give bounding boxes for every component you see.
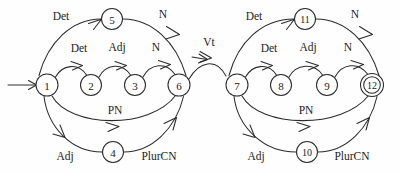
edge-label-det-1-2: Det	[71, 42, 88, 54]
node-7-label: 7	[234, 80, 240, 92]
edge-label-n-3-6: N	[152, 41, 161, 53]
edge-label-det-7-8: Det	[261, 42, 278, 54]
edge-7-to-8	[246, 62, 277, 78]
edge-label-pn-1-6: PN	[108, 104, 123, 116]
node-5-label: 5	[109, 14, 115, 26]
node-4[interactable]: 4	[103, 142, 124, 163]
node-11[interactable]: 11	[295, 9, 316, 30]
node-5[interactable]: 5	[102, 9, 123, 30]
node-1[interactable]: 1	[36, 74, 58, 96]
edge-label-n-9-12: N	[344, 41, 353, 53]
node-2[interactable]: 2	[81, 75, 102, 96]
node-6[interactable]: 6	[168, 74, 190, 96]
edge-label-det-1-5: Det	[53, 10, 70, 22]
edge-label-n-11-12: N	[351, 8, 360, 20]
edge-label-plurcn-10-12: PlurCN	[334, 150, 370, 162]
edge-3-to-6	[143, 61, 175, 78]
edge-7-to-10	[234, 97, 296, 153]
node-2-label: 2	[88, 80, 94, 92]
node-10-label: 10	[302, 147, 312, 158]
node-7[interactable]: 7	[226, 74, 248, 96]
start-arrow	[8, 81, 37, 90]
node-3[interactable]: 3	[125, 75, 146, 96]
node-9[interactable]: 9	[317, 75, 338, 96]
node-3-label: 3	[132, 80, 138, 92]
edge-6-to-7-vt	[189, 52, 226, 80]
fsa-canvas: 1 2 3 4 5 6 7 8	[0, 0, 400, 172]
node-1-label: 1	[44, 80, 50, 92]
node-12-label: 12	[367, 80, 377, 91]
edge-4-to-6	[124, 97, 184, 153]
edge-label-vt-6-7: Vt	[203, 36, 215, 48]
node-12-accepting[interactable]: 12	[361, 74, 384, 97]
edge-label-adj-7-10: Adj	[247, 150, 264, 163]
node-8[interactable]: 8	[271, 75, 292, 96]
edge-label-adj-1-4: Adj	[56, 150, 73, 163]
edge-1-to-2	[56, 62, 87, 78]
edge-1-to-4	[44, 97, 102, 153]
node-10[interactable]: 10	[297, 142, 318, 163]
edge-10-to-12	[318, 97, 377, 153]
edge-label-plurcn-4-6: PlurCN	[141, 150, 177, 162]
edge-label-pn-7-12: PN	[299, 104, 314, 116]
edge-2-to-3	[99, 62, 131, 78]
node-11-label: 11	[300, 14, 310, 25]
edge-8-to-9	[289, 62, 323, 78]
node-6-label: 6	[176, 80, 182, 92]
edge-label-adj-8-9: Adj	[299, 41, 316, 54]
edge-label-det-7-11: Det	[246, 10, 263, 22]
node-9-label: 9	[324, 80, 330, 92]
node-4-label: 4	[110, 147, 116, 159]
edge-label-n-5-6: N	[159, 8, 168, 20]
node-8-label: 8	[278, 80, 284, 92]
fsa-diagram: 1 2 3 4 5 6 7 8	[0, 0, 400, 172]
edge-label-adj-2-3: Adj	[108, 41, 125, 54]
edge-9-to-12	[335, 61, 368, 78]
